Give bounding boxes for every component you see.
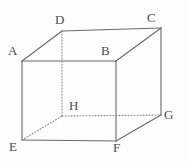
- edge-C-D: [62, 28, 161, 31]
- cube-diagram-figure: ABCDEFGH: [0, 0, 187, 162]
- cube-wireframe-svg: [0, 0, 187, 162]
- edge-E-F: [22, 140, 116, 141]
- vertex-label-b: B: [101, 44, 110, 57]
- vertex-label-g: G: [164, 108, 173, 121]
- vertex-label-d: D: [55, 13, 64, 26]
- hidden-edges-group: [22, 31, 161, 140]
- edge-E-H: [22, 116, 62, 140]
- solid-edges-group: [22, 28, 161, 141]
- edge-B-C: [116, 28, 161, 61]
- vertex-label-a: A: [8, 44, 17, 57]
- edge-D-A: [22, 31, 62, 61]
- edge-F-G: [116, 115, 161, 141]
- vertex-label-f: F: [113, 141, 120, 154]
- edge-H-G: [62, 115, 161, 116]
- vertex-label-h: H: [69, 99, 78, 112]
- vertex-label-c: C: [147, 11, 156, 24]
- vertex-label-e: E: [9, 140, 17, 153]
